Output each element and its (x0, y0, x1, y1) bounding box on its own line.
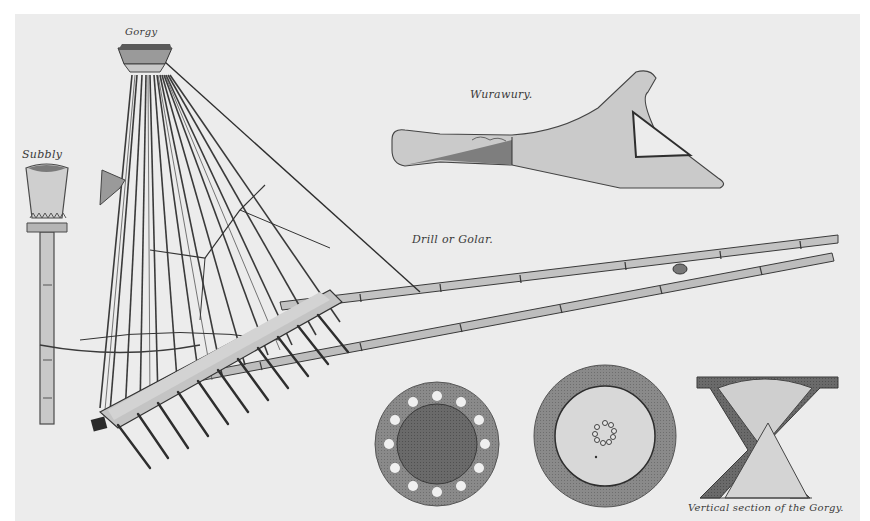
label-drill: Drill or Golar. (412, 233, 493, 246)
wurawury-figure (392, 71, 724, 188)
gorgy-figure (80, 44, 420, 468)
label-gorgy: Gorgy (125, 26, 157, 37)
gorgy-top-plan (534, 365, 676, 507)
gorgy-vertical-section (697, 377, 838, 498)
engraving-artwork (0, 0, 870, 521)
label-subbly: Subbly (22, 148, 62, 161)
engraving-page: Gorgy Subbly Wurawury. Drill or Golar. V… (0, 0, 870, 521)
label-vertical-section: Vertical section of the Gorgy. (688, 502, 844, 513)
label-wurawury: Wurawury. (470, 88, 532, 101)
gorgy-base-plan (375, 382, 499, 506)
